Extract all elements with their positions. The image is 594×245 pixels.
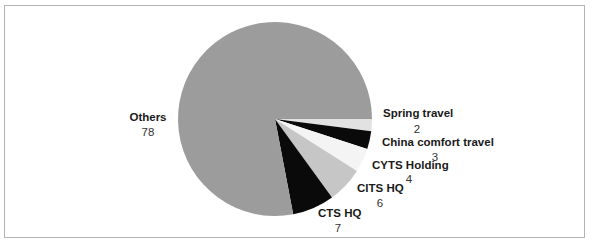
label-name: China comfort travel [382,136,494,148]
label-value: 4 [406,173,413,185]
label-cits-hq: CITS HQ 6 [357,182,404,209]
label-name: CITS HQ [357,182,404,194]
label-name: Spring travel [383,107,453,119]
label-value: 6 [377,197,383,209]
label-name: Others [129,111,166,123]
label-value: 78 [142,126,155,138]
label-name: CYTS Holding [372,159,449,171]
pie-chart: Spring travel 2 China comfort travel 3 C… [0,0,594,245]
label-name: CTS HQ [318,207,362,219]
label-others: Others 78 [129,111,166,138]
label-value: 2 [414,123,420,135]
label-cts-hq: CTS HQ 7 [318,207,362,234]
label-value: 7 [335,222,341,234]
label-spring-travel: Spring travel 2 [383,107,453,135]
pie-slices [178,22,372,216]
